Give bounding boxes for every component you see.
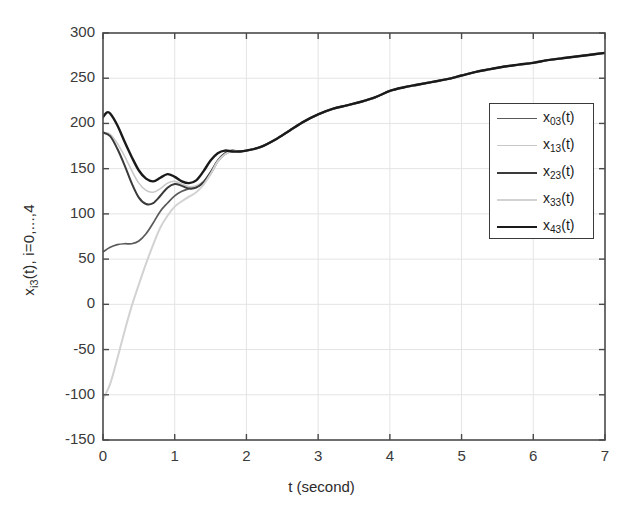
legend-label-subscript: 43 <box>550 225 561 236</box>
legend-item-x23t[interactable]: x23(t) <box>490 159 595 186</box>
x-axis-label: t (second) <box>0 478 643 495</box>
y-tick-label: 50 <box>47 249 95 266</box>
x-tick-label: 5 <box>442 447 482 464</box>
y-tick-label: -150 <box>47 430 95 447</box>
x-tick-label: 7 <box>585 447 625 464</box>
y-tick-label: 250 <box>47 68 95 85</box>
y-axis-label: xi3(t), i=0,...,4 <box>18 150 42 350</box>
x-tick-label: 6 <box>513 447 553 464</box>
legend-label: x03(t) <box>543 109 574 127</box>
legend-item-x13t[interactable]: x13(t) <box>490 132 595 159</box>
x-tick-label: 1 <box>155 447 195 464</box>
legend-item-x43t[interactable]: x43(t) <box>490 213 595 240</box>
figure-canvas: xi3(t), i=0,...,4 t (second) x03(t)x13(t… <box>0 0 643 515</box>
legend-label: x23(t) <box>543 163 574 181</box>
y-axis-label-text: xi3(t), i=0,...,4 <box>20 204 39 295</box>
y-tick-label: -100 <box>47 385 95 402</box>
legend-swatch-line <box>497 145 537 146</box>
y-tick-label: 150 <box>47 159 95 176</box>
legend-swatch-line <box>497 199 537 201</box>
legend-label: x33(t) <box>543 190 574 208</box>
legend-label-subscript: 13 <box>550 144 561 155</box>
y-tick-label: -50 <box>47 340 95 357</box>
legend-label: x13(t) <box>543 136 574 154</box>
y-tick-label: 100 <box>47 204 95 221</box>
chart-plot <box>0 0 643 515</box>
x-tick-label: 4 <box>370 447 410 464</box>
y-tick-label: 0 <box>47 294 95 311</box>
legend-swatch-line <box>497 172 537 174</box>
legend-swatch-line <box>497 226 537 228</box>
legend-label-subscript: 33 <box>550 198 561 209</box>
y-tick-label: 200 <box>47 113 95 130</box>
legend[interactable]: x03(t)x13(t)x23(t)x33(t)x43(t) <box>489 103 594 239</box>
legend-label-subscript: 03 <box>550 117 561 128</box>
x-tick-label: 3 <box>298 447 338 464</box>
y-tick-label: 300 <box>47 23 95 40</box>
legend-swatch-line <box>497 118 537 119</box>
x-tick-label: 0 <box>83 447 123 464</box>
y-label-subscript: i3 <box>28 279 40 288</box>
legend-item-x03t[interactable]: x03(t) <box>490 105 595 132</box>
legend-label: x43(t) <box>543 217 574 235</box>
x-tick-label: 2 <box>226 447 266 464</box>
legend-item-x33t[interactable]: x33(t) <box>490 186 595 213</box>
legend-label-subscript: 23 <box>550 171 561 182</box>
